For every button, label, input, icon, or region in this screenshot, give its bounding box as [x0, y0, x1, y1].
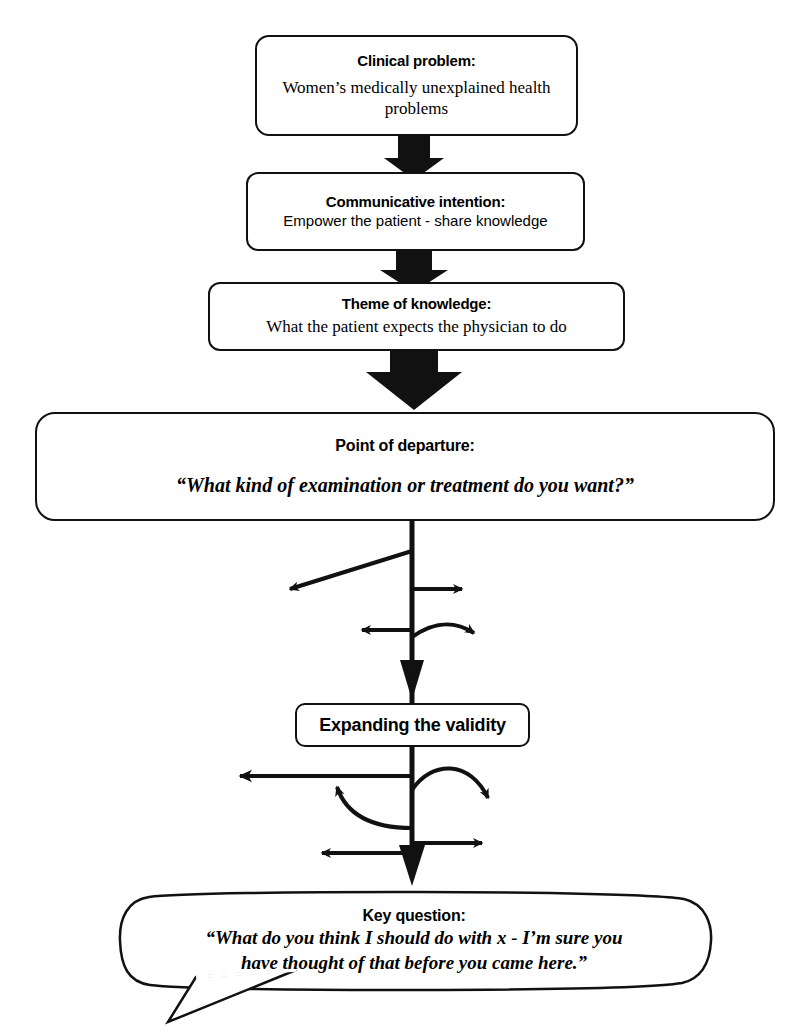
- node-communicative-intention-body: Empower the patient - share knowledge: [283, 212, 547, 231]
- node-key-question-body-line2: have thought of that before you came her…: [241, 951, 587, 975]
- node-key-question-body-line1: “What do you think I should do with x - …: [205, 926, 622, 950]
- node-communicative-intention-title: Communicative intention:: [326, 193, 505, 210]
- node-expanding-validity: Expanding the validity: [295, 703, 530, 747]
- node-key-question-title: Key question:: [362, 907, 465, 925]
- node-point-of-departure: Point of departure: “What kind of examin…: [35, 412, 775, 521]
- node-theme-of-knowledge-body: What the patient expects the physician t…: [266, 317, 567, 337]
- node-expanding-validity-title: Expanding the validity: [319, 715, 506, 736]
- node-theme-of-knowledge: Theme of knowledge: What the patient exp…: [208, 282, 625, 351]
- diagram-canvas: Clinical problem: Women’s medically unex…: [0, 0, 805, 1033]
- node-clinical-problem-body: Women’s medically unexplained health pro…: [271, 78, 562, 119]
- branch-lower-curve-up-left: [337, 787, 412, 828]
- node-clinical-problem: Clinical problem: Women’s medically unex…: [255, 35, 578, 136]
- node-theme-of-knowledge-title: Theme of knowledge:: [342, 295, 492, 312]
- branch-upper-curve-right: [412, 624, 474, 637]
- block-arrow-3: [366, 351, 462, 410]
- node-point-of-departure-body: “What kind of examination or treatment d…: [176, 473, 634, 497]
- node-key-question: Key question: “What do you think I shoul…: [117, 895, 711, 987]
- node-point-of-departure-title: Point of departure:: [335, 437, 474, 455]
- trunk-upper: [290, 521, 474, 700]
- branch-upper-diagonal-left: [290, 551, 412, 589]
- node-communicative-intention: Communicative intention: Empower the pat…: [246, 172, 585, 251]
- node-clinical-problem-title: Clinical problem:: [357, 52, 475, 69]
- branch-lower-curve-right: [412, 768, 488, 798]
